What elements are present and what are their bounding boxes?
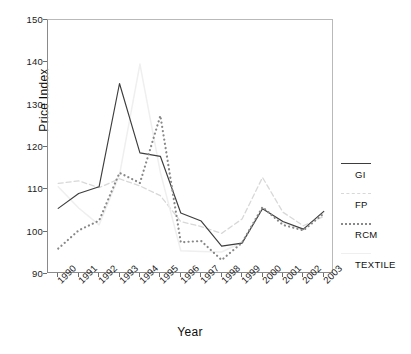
- x-axis-tick-label: 2001: [280, 262, 303, 285]
- x-axis-tick-label: 2000: [260, 262, 283, 285]
- x-axis-tick-label: 1995: [157, 262, 180, 285]
- x-axis-tick-mark: [159, 273, 160, 277]
- x-axis-tick-label: 1996: [178, 262, 201, 285]
- legend-label: GI: [355, 169, 366, 180]
- x-axis-tick-mark: [302, 273, 303, 277]
- x-axis-tick-label: 1999: [239, 262, 262, 285]
- x-axis-tick-mark: [78, 273, 79, 277]
- x-axis-tick-label: 1990: [55, 262, 78, 285]
- x-axis-tick-label: 1991: [76, 262, 99, 285]
- x-axis-tick-mark: [200, 273, 201, 277]
- x-axis-tick-mark: [57, 273, 58, 277]
- x-axis-tick-label: 1997: [198, 262, 221, 285]
- x-axis-tick-mark: [180, 273, 181, 277]
- x-axis-title: Year: [47, 325, 333, 339]
- x-axis-tick-mark: [221, 273, 222, 277]
- x-axis-tick-label: 1994: [137, 262, 160, 285]
- x-axis-tick-mark: [241, 273, 242, 277]
- x-axis-tick-mark: [262, 273, 263, 277]
- x-axis-tick-label: 1993: [117, 262, 140, 285]
- x-axis-tick-label: 2002: [300, 262, 323, 285]
- x-axis-tick-mark: [139, 273, 140, 277]
- x-axis-tick-label: 1992: [96, 262, 119, 285]
- price-index-line-chart: 90100110120130140150 Price Index 1990199…: [0, 0, 411, 354]
- legend-label: RCM: [355, 229, 378, 240]
- legend-label: FP: [355, 199, 368, 210]
- x-axis-tick-mark: [323, 273, 324, 277]
- legend-label: TEXTILE: [355, 259, 396, 270]
- chart-legend: GIFPRCMTEXTILE: [341, 160, 411, 280]
- x-axis-tick-mark: [98, 273, 99, 277]
- x-axis-tick-mark: [282, 273, 283, 277]
- x-axis-tick-label: 1998: [219, 262, 242, 285]
- x-axis-tick-mark: [119, 273, 120, 277]
